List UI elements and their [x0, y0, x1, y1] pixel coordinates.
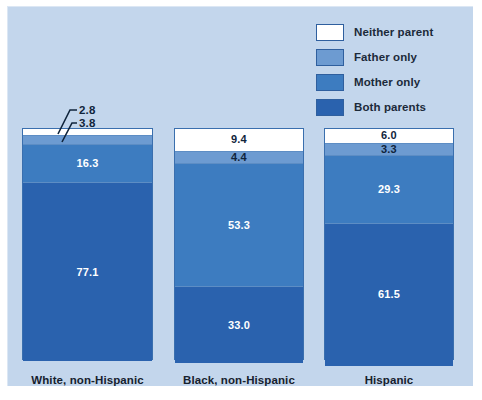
bar-segment[interactable]: 33.0: [175, 286, 303, 363]
bar-segment[interactable]: 4.4: [175, 151, 303, 163]
legend-swatch-father-only: [316, 49, 344, 66]
stacked-bar[interactable]: 9.44.453.333.0: [174, 128, 304, 360]
bar-segment[interactable]: 9.4: [175, 129, 303, 151]
stacked-bar[interactable]: 2.83.816.377.1: [22, 128, 153, 360]
bar-group: 2.83.816.377.1White, non-Hispanic: [22, 0, 153, 400]
legend-swatch-neither-parent: [316, 24, 344, 41]
bar-group: 9.44.453.333.0Black, non-Hispanic: [174, 0, 304, 400]
bar-segment[interactable]: 16.3: [23, 144, 152, 182]
bar-segment[interactable]: 3.8: [23, 135, 152, 144]
legend-label-both-parents: Both parents: [354, 101, 426, 113]
bar-segment[interactable]: 29.3: [325, 155, 453, 223]
bar-segment-value: 33.0: [228, 320, 250, 331]
category-label: Black, non-Hispanic: [174, 374, 304, 386]
chart-legend: Neither parent Father only Mother only B…: [316, 21, 466, 121]
bar-segment-value: 9.4: [231, 134, 247, 145]
legend-label-neither-parent: Neither parent: [354, 26, 433, 38]
legend-item-both-parents[interactable]: Both parents: [316, 96, 466, 118]
category-label: White, non-Hispanic: [22, 374, 153, 386]
bar-segment-value: 29.3: [378, 184, 400, 195]
bar-segment[interactable]: 61.5: [325, 223, 453, 366]
bar-segment-value: 16.3: [76, 158, 98, 169]
legend-item-mother-only[interactable]: Mother only: [316, 71, 466, 93]
bar-segment-value: 3.3: [381, 144, 397, 155]
bar-segment[interactable]: 6.0: [325, 129, 453, 143]
bar-segment-value: 61.5: [378, 289, 400, 300]
bar-segment[interactable]: 3.3: [325, 143, 453, 155]
category-label: Hispanic: [324, 374, 454, 386]
bar-segment-value: 77.1: [76, 267, 98, 278]
bar-segment-value: 4.4: [231, 152, 247, 163]
stacked-bar[interactable]: 6.03.329.361.5: [324, 128, 454, 360]
bar-segment-value: 53.3: [228, 220, 250, 231]
bar-segment-value: 6.0: [381, 130, 397, 141]
legend-label-father-only: Father only: [354, 51, 417, 63]
legend-item-neither-parent[interactable]: Neither parent: [316, 21, 466, 43]
legend-label-mother-only: Mother only: [354, 76, 420, 88]
legend-swatch-mother-only: [316, 74, 344, 91]
legend-item-father-only[interactable]: Father only: [316, 46, 466, 68]
legend-swatch-both-parents: [316, 99, 344, 116]
chart-container: 2.83.816.377.1White, non-Hispanic9.44.45…: [0, 0, 482, 400]
bar-segment[interactable]: 77.1: [23, 182, 152, 361]
bar-segment[interactable]: 53.3: [175, 163, 303, 287]
